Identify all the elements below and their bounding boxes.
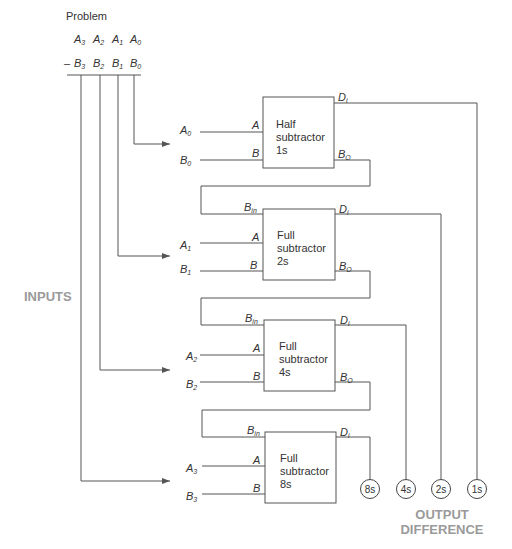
block-3-pin-bo: BO: [340, 372, 353, 384]
block-1-pin-b: B: [252, 148, 259, 159]
block-3-pin-bin: Bin: [245, 313, 258, 325]
block-2-pin-a: A: [252, 232, 259, 243]
block-1-pin-a: A: [252, 120, 259, 131]
block-2-pin-bo: BO: [339, 261, 352, 273]
block-1-pin-bo: BO: [338, 149, 351, 161]
output-difference-label: OUTPUT DIFFERENCE: [387, 507, 497, 537]
circuit-wiring: [0, 0, 512, 549]
block-2-pin-di: Di: [339, 204, 349, 216]
b0-header: B0: [130, 58, 141, 70]
block-3-input-b-label: B2: [186, 379, 197, 391]
block-4-label: Fullsubtractor8s: [280, 452, 329, 491]
block-2-pin-bin: Bin: [244, 202, 257, 214]
block-2-pin-b: B: [250, 260, 257, 271]
block-1-input-a-label: A0: [180, 125, 191, 137]
block-1-pin-di: Di: [338, 92, 348, 104]
output-2s: 2s: [431, 479, 451, 499]
a1-header: A1: [112, 34, 123, 46]
b3-header: B3: [74, 58, 85, 70]
block-3-input-a-label: A2: [186, 351, 197, 363]
block-4-pin-a: A: [253, 455, 260, 466]
block-4-pin-di: Di: [340, 427, 350, 439]
block-4-input-a-label: A3: [186, 463, 197, 475]
block-2-input-b-label: B1: [180, 264, 191, 276]
block-2-input-a-label: A1: [180, 240, 191, 252]
block-3-label: Fullsubtractor4s: [279, 340, 328, 379]
b2-header: B2: [93, 58, 104, 70]
block-4-pin-b: B: [253, 483, 260, 494]
block-3-pin-a: A: [253, 343, 260, 354]
output-1s: 1s: [467, 479, 487, 499]
b1-header: B1: [112, 58, 123, 70]
a3-header: A3: [74, 34, 85, 46]
block-1-input-b-label: B0: [180, 155, 191, 167]
block-4-pin-bin: Bin: [247, 425, 260, 437]
block-4-input-b-label: B3: [186, 491, 197, 503]
block-3-pin-b: B: [253, 371, 260, 382]
inputs-label: INPUTS: [24, 290, 72, 303]
block-1-label: Halfsubtractor1s: [276, 118, 325, 157]
output-8s: 8s: [360, 479, 380, 499]
block-3-pin-di: Di: [340, 315, 350, 327]
problem-title: Problem: [66, 11, 107, 22]
minus-sign: –: [64, 58, 70, 69]
a2-header: A2: [93, 34, 104, 46]
output-4s: 4s: [396, 479, 416, 499]
a0-header: A0: [130, 34, 141, 46]
block-2-label: Fullsubtractor2s: [277, 229, 326, 268]
